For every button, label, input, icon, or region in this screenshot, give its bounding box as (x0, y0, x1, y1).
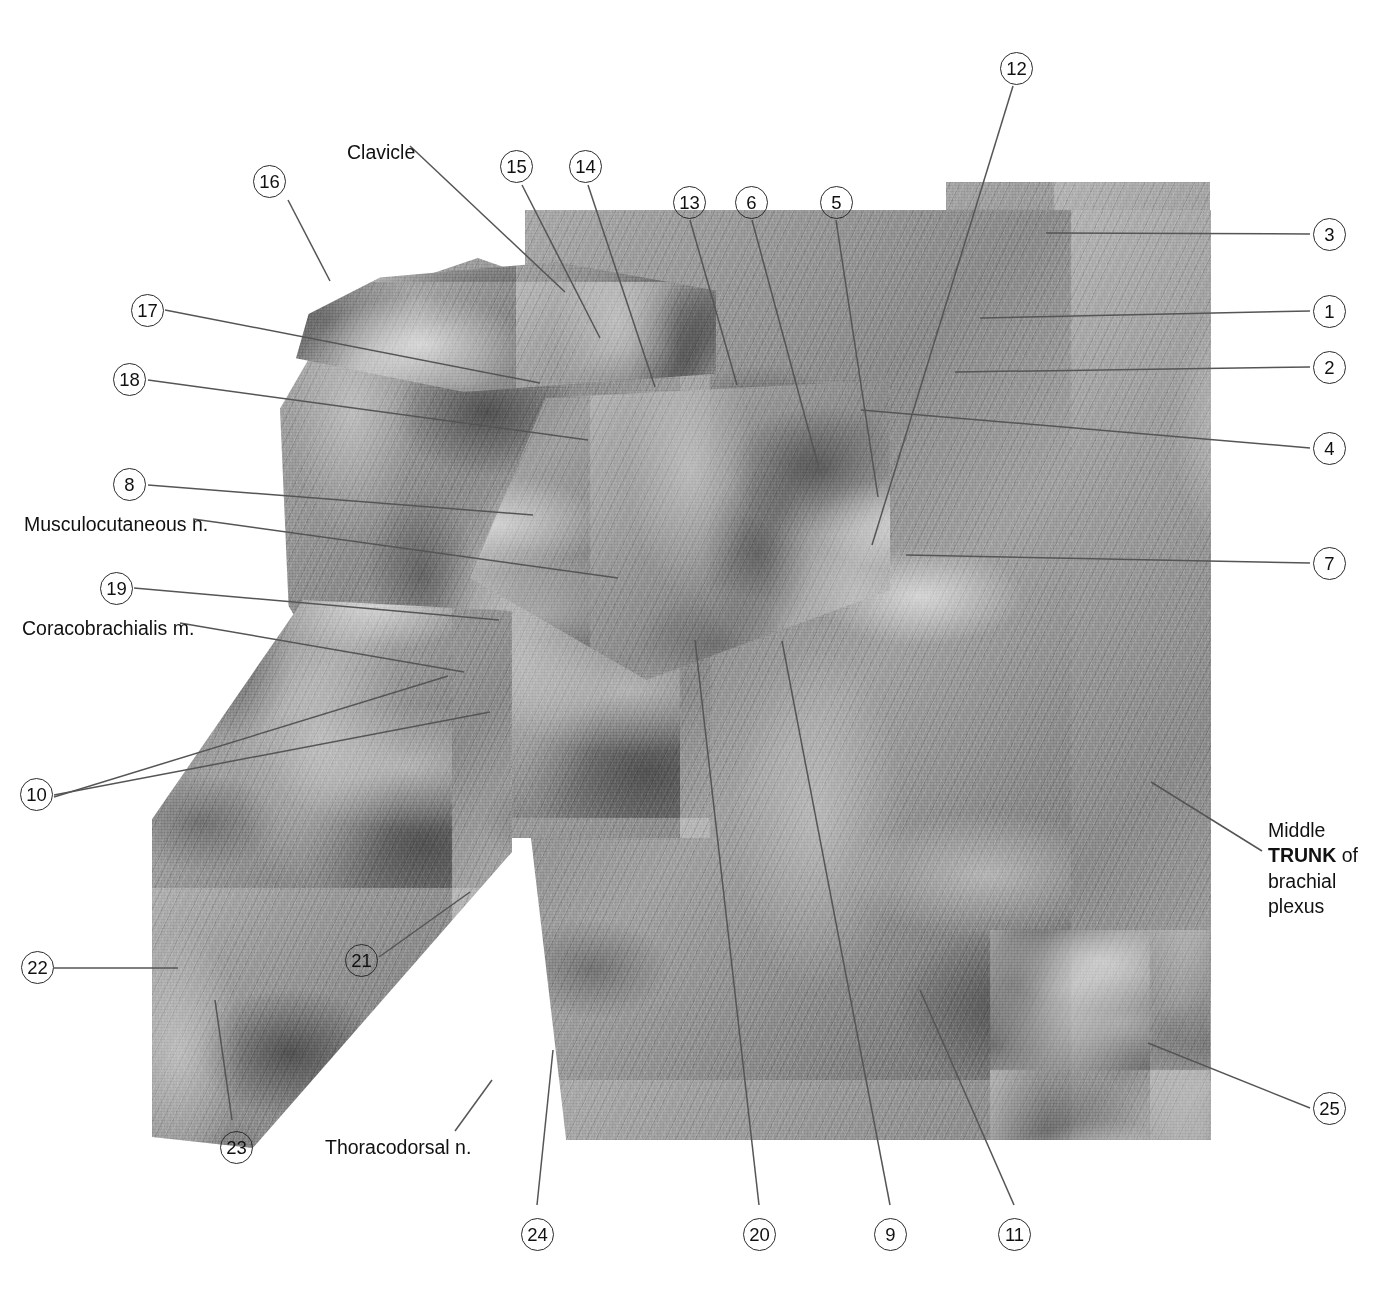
callout-number-11[interactable]: 11 (998, 1218, 1031, 1251)
callout-number-8[interactable]: 8 (113, 468, 146, 501)
label-middle-trunk: MiddleTRUNK ofbrachialplexus (1268, 818, 1378, 919)
label-middle-trunk-line-0: Middle (1268, 818, 1378, 843)
callout-number-13[interactable]: 13 (673, 186, 706, 219)
callout-number-9[interactable]: 9 (874, 1218, 907, 1251)
callout-number-3[interactable]: 3 (1313, 218, 1346, 251)
callout-number-23[interactable]: 23 (220, 1131, 253, 1164)
photo-region-ribs (990, 930, 1210, 1140)
callout-number-20[interactable]: 20 (743, 1218, 776, 1251)
callout-number-2[interactable]: 2 (1313, 351, 1346, 384)
label-musculocutaneous: Musculocutaneous n. (24, 513, 208, 536)
callout-number-16[interactable]: 16 (253, 165, 286, 198)
callout-number-6[interactable]: 6 (735, 186, 768, 219)
label-middle-trunk-line-2: brachial (1268, 869, 1378, 894)
label-coracobrachialis: Coracobrachialis m. (22, 617, 194, 640)
figure-page: 1216151413653124717188191022232125242091… (0, 0, 1382, 1311)
label-clavicle: Clavicle (347, 141, 415, 164)
callout-number-15[interactable]: 15 (500, 150, 533, 183)
callout-number-1[interactable]: 1 (1313, 295, 1346, 328)
callout-number-12[interactable]: 12 (1000, 52, 1033, 85)
callout-number-14[interactable]: 14 (569, 150, 602, 183)
callout-number-5[interactable]: 5 (820, 186, 853, 219)
label-middle-trunk-suffix: of (1336, 844, 1358, 866)
callout-number-21[interactable]: 21 (345, 944, 378, 977)
callout-number-25[interactable]: 25 (1313, 1092, 1346, 1125)
callout-number-17[interactable]: 17 (131, 294, 164, 327)
callout-number-4[interactable]: 4 (1313, 432, 1346, 465)
callout-number-24[interactable]: 24 (521, 1218, 554, 1251)
callout-number-7[interactable]: 7 (1313, 547, 1346, 580)
callout-number-10[interactable]: 10 (20, 778, 53, 811)
label-middle-trunk-line-3: plexus (1268, 894, 1378, 919)
callout-number-19[interactable]: 19 (100, 572, 133, 605)
label-middle-trunk-emphasis: TRUNK (1268, 844, 1336, 866)
photo-region-arm (152, 600, 512, 1148)
callout-number-22[interactable]: 22 (21, 951, 54, 984)
callout-number-18[interactable]: 18 (113, 363, 146, 396)
label-thoracodorsal: Thoracodorsal n. (325, 1136, 471, 1159)
label-middle-trunk-line-1: TRUNK of (1268, 843, 1378, 868)
